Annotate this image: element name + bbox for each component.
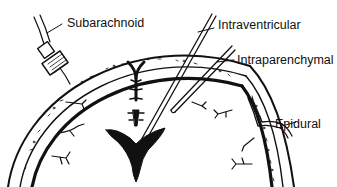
subarachnoid-bolt bbox=[34, 15, 70, 84]
label-intraparenchymal: Intraparenchymal bbox=[237, 53, 334, 67]
label-subarachnoid: Subarachnoid bbox=[67, 16, 144, 30]
label-epidural: Epidural bbox=[275, 117, 321, 131]
ventricles bbox=[106, 128, 165, 182]
label-intraventricular: Intraventricular bbox=[218, 18, 301, 32]
